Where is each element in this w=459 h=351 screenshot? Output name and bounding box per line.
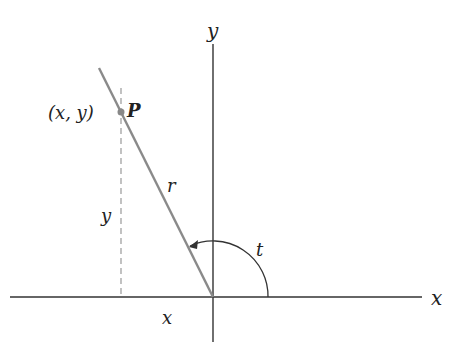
x-axis-label: x [431, 286, 442, 310]
diagram-svg: y x P (x, y) r y x t [0, 0, 459, 351]
radius-label: r [167, 175, 177, 196]
point-coords-label: (x, y) [48, 102, 94, 123]
point-p [118, 109, 125, 116]
vertical-segment-label: y [100, 205, 112, 226]
angle-label: t [256, 239, 264, 260]
y-axis-label: y [206, 19, 219, 43]
arrowhead-icon [189, 240, 198, 249]
terminal-ray [99, 68, 213, 297]
point-label: P [126, 100, 141, 121]
unit-angle-diagram: y x P (x, y) r y x t [0, 0, 459, 351]
horizontal-segment-label: x [162, 307, 172, 328]
